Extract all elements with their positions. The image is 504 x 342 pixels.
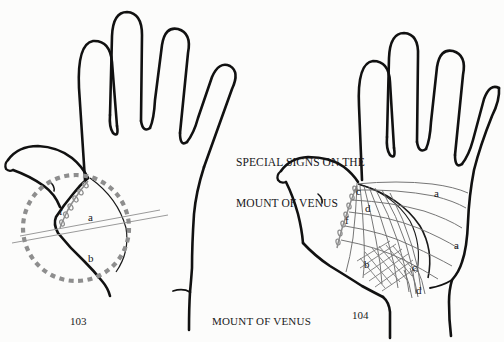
right-hand-outline [359, 33, 499, 336]
left-hand-label-a-1: a [88, 212, 93, 223]
right-hand-label-c-0: c [356, 186, 361, 197]
right-hand-label-b-4: b [364, 259, 370, 270]
right-hand-label-d-2: d [365, 203, 371, 214]
left-hand-label-b-2: b [88, 253, 94, 264]
figure-title-line-1: SPECIAL SIGNS ON THE [236, 156, 365, 170]
right-hand-label-f-3: f [345, 215, 349, 226]
center-caption: MOUNT OF VENUS [212, 315, 311, 327]
left-figure-number: 103 [70, 315, 87, 327]
left-thumb-and-heel [5, 146, 110, 296]
right-figure-number: 104 [352, 309, 369, 321]
right-hand-label-d-7: d [416, 285, 422, 296]
right-hand-label-c-5: c [412, 262, 417, 273]
right-hand-label-a-6: a [454, 240, 459, 251]
right-hand-label-a-1: a [434, 188, 439, 199]
palmistry-figure-page: SPECIAL SIGNS ON THE MOUNT OF VENUS 103 … [0, 0, 504, 342]
left-hand-label-f-0: f [59, 206, 63, 217]
figure-title-line-2: MOUNT OF VENUS [236, 197, 365, 211]
